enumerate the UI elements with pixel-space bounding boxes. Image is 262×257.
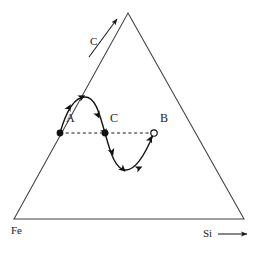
axis-label-si: Si: [203, 228, 212, 239]
data-point-label-b: B: [160, 112, 168, 124]
ternary-diagram-figure: Fe Si C A C B: [0, 0, 262, 257]
data-point-label-c: C: [110, 112, 118, 124]
ternary-diagram-svg: [0, 0, 262, 257]
triangle-outline: [14, 13, 244, 219]
data-point-label-a: A: [66, 112, 75, 124]
data-point-a-marker[interactable]: [57, 130, 64, 137]
data-point-c-marker[interactable]: [102, 130, 109, 137]
axis-label-c: C: [90, 36, 97, 47]
corner-label-fe: Fe: [11, 225, 22, 236]
data-point-b-marker[interactable]: [151, 130, 157, 136]
